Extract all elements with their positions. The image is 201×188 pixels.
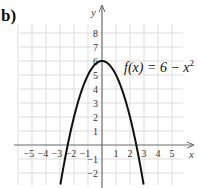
y-tick-label: 1 <box>93 126 98 137</box>
y-tick-label: 3 <box>93 98 98 109</box>
y-axis-label: y <box>90 6 96 18</box>
x-tick-label: 2 <box>128 148 133 159</box>
y-tick-label: 2 <box>93 112 98 123</box>
function-label-exponent: 2 <box>190 58 195 68</box>
x-tick-label: 3 <box>142 148 147 159</box>
x-axis-label: x <box>188 148 194 160</box>
x-tick-label: 1 <box>114 148 119 159</box>
x-tick-label: 4 <box>156 148 161 159</box>
y-tick-label: 5 <box>93 70 98 81</box>
axes <box>14 5 194 188</box>
y-tick-label: −2 <box>87 168 98 179</box>
x-tick-label: 5 <box>170 148 175 159</box>
y-tick-label: 7 <box>93 42 98 53</box>
x-tick-label: −3 <box>52 148 63 159</box>
y-tick-label: 4 <box>93 84 98 95</box>
x-tick-label: −4 <box>38 148 49 159</box>
function-label: f(x) = 6 − x2 <box>124 58 194 76</box>
y-tick-label: −1 <box>87 154 98 165</box>
y-tick-label: 8 <box>93 28 98 39</box>
grid <box>18 24 183 185</box>
function-label-text: f(x) = 6 − x <box>124 60 190 76</box>
chart: −5−4−3−2−112345−2−112345678 f(x) = 6 − x… <box>0 0 201 188</box>
x-tick-label: −5 <box>24 148 35 159</box>
